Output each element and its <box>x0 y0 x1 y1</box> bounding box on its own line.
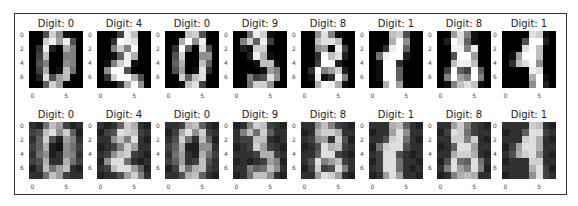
panel-title: Digit: 1 <box>361 109 431 120</box>
panel-title: Digit: 9 <box>225 109 295 120</box>
y-tick-label: 6 <box>20 73 24 80</box>
panel-title: Digit: 1 <box>361 18 431 29</box>
y-tick-label: 2 <box>20 45 24 52</box>
y-tick-label: 6 <box>88 164 92 171</box>
x-tick-label: 0 <box>302 92 306 99</box>
y-tick-label: 2 <box>224 45 228 52</box>
panel-title: Digit: 0 <box>21 18 91 29</box>
x-tick-label: 0 <box>98 92 102 99</box>
y-tick-label: 2 <box>360 136 364 143</box>
y-tick-label: 2 <box>493 136 497 143</box>
y-tick-label: 0 <box>493 31 497 38</box>
x-tick-label: 0 <box>503 92 507 99</box>
panel-title: Digit: 8 <box>429 109 499 120</box>
y-tick-label: 6 <box>292 73 296 80</box>
y-tick-label: 4 <box>493 59 497 66</box>
y-tick-label: 6 <box>88 73 92 80</box>
y-tick-label: 4 <box>156 150 160 157</box>
y-tick-label: 2 <box>292 136 296 143</box>
y-tick-label: 0 <box>292 31 296 38</box>
y-tick-label: 4 <box>224 59 228 66</box>
x-tick-label: 5 <box>404 183 408 190</box>
y-tick-label: 6 <box>493 73 497 80</box>
x-tick-label: 5 <box>268 92 272 99</box>
digit-image <box>233 122 287 179</box>
digit-image <box>29 122 83 179</box>
panel-title: Digit: 0 <box>157 109 227 120</box>
x-tick-label: 0 <box>30 183 34 190</box>
digit-image <box>97 31 151 88</box>
panel-title: Digit: 8 <box>429 18 499 29</box>
digit-image <box>437 31 491 88</box>
digit-image <box>29 31 83 88</box>
panel-title: Digit: 4 <box>89 18 159 29</box>
digit-image <box>369 122 423 179</box>
y-tick-label: 2 <box>20 136 24 143</box>
y-tick-label: 6 <box>360 164 364 171</box>
x-tick-label: 5 <box>268 183 272 190</box>
y-tick-label: 6 <box>20 164 24 171</box>
x-tick-label: 0 <box>234 92 238 99</box>
y-tick-label: 6 <box>224 164 228 171</box>
x-tick-label: 0 <box>166 183 170 190</box>
y-tick-label: 4 <box>88 59 92 66</box>
panel-title: Digit: 8 <box>293 109 363 120</box>
y-tick-label: 2 <box>156 45 160 52</box>
digit-image <box>437 122 491 179</box>
panel-title: Digit: 1 <box>494 18 564 29</box>
y-tick-label: 4 <box>292 150 296 157</box>
y-tick-label: 0 <box>360 31 364 38</box>
y-tick-label: 0 <box>292 122 296 129</box>
y-tick-label: 2 <box>292 45 296 52</box>
x-tick-label: 0 <box>370 92 374 99</box>
x-tick-label: 5 <box>472 92 476 99</box>
panel-title: Digit: 1 <box>494 109 564 120</box>
x-tick-label: 0 <box>370 183 374 190</box>
x-tick-label: 5 <box>132 183 136 190</box>
y-tick-label: 4 <box>292 59 296 66</box>
y-tick-label: 4 <box>428 150 432 157</box>
digit-image <box>97 122 151 179</box>
digit-image <box>165 31 219 88</box>
y-tick-label: 6 <box>428 164 432 171</box>
y-tick-label: 0 <box>360 122 364 129</box>
y-tick-label: 0 <box>20 122 24 129</box>
panel-title: Digit: 9 <box>225 18 295 29</box>
y-tick-label: 0 <box>88 31 92 38</box>
digit-image <box>301 122 355 179</box>
x-tick-label: 0 <box>302 183 306 190</box>
y-tick-label: 2 <box>88 136 92 143</box>
x-tick-label: 0 <box>438 183 442 190</box>
y-tick-label: 2 <box>360 45 364 52</box>
x-tick-label: 5 <box>472 183 476 190</box>
y-tick-label: 2 <box>493 45 497 52</box>
y-tick-label: 2 <box>428 45 432 52</box>
y-tick-label: 6 <box>156 164 160 171</box>
y-tick-label: 4 <box>88 150 92 157</box>
y-tick-label: 2 <box>88 45 92 52</box>
x-tick-label: 5 <box>200 183 204 190</box>
digit-image <box>369 31 423 88</box>
y-tick-label: 6 <box>493 164 497 171</box>
x-tick-label: 5 <box>537 183 541 190</box>
x-tick-label: 5 <box>537 92 541 99</box>
y-tick-label: 4 <box>360 59 364 66</box>
y-tick-label: 4 <box>20 59 24 66</box>
x-tick-label: 5 <box>404 92 408 99</box>
x-tick-label: 5 <box>336 92 340 99</box>
x-tick-label: 0 <box>234 183 238 190</box>
y-tick-label: 2 <box>156 136 160 143</box>
digit-image <box>233 31 287 88</box>
digit-image <box>502 31 556 88</box>
y-tick-label: 4 <box>156 59 160 66</box>
x-tick-label: 5 <box>64 183 68 190</box>
y-tick-label: 4 <box>224 150 228 157</box>
y-tick-label: 0 <box>428 122 432 129</box>
y-tick-label: 0 <box>428 31 432 38</box>
x-tick-label: 0 <box>166 92 170 99</box>
panel-title: Digit: 8 <box>293 18 363 29</box>
x-tick-label: 0 <box>30 92 34 99</box>
y-tick-label: 2 <box>224 136 228 143</box>
x-tick-label: 5 <box>64 92 68 99</box>
y-tick-label: 6 <box>224 73 228 80</box>
